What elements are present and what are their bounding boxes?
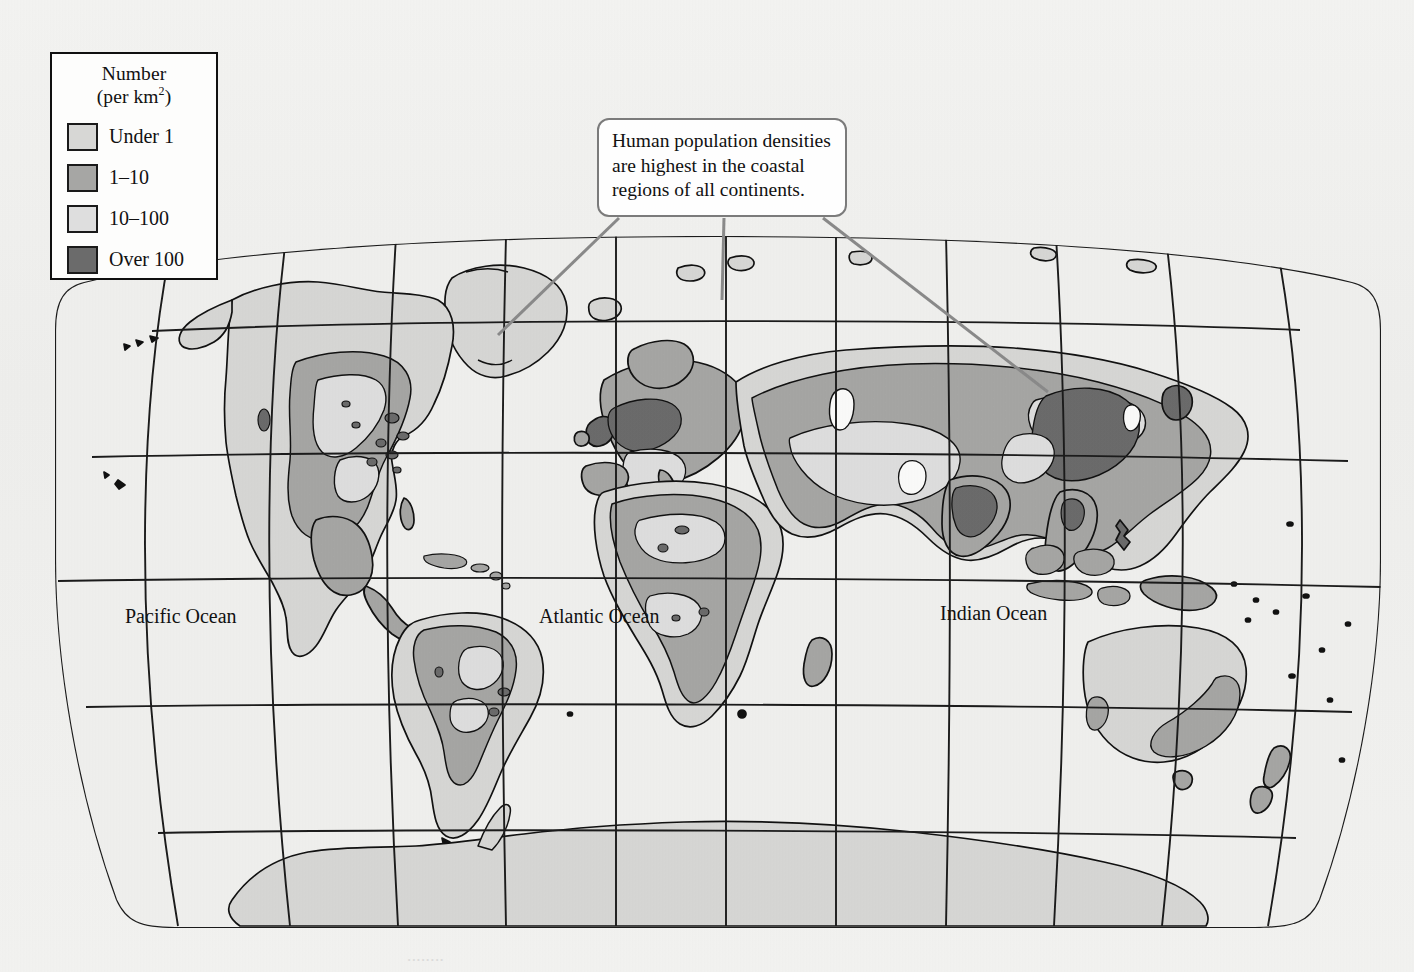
land-arctic-isle-c [1031,247,1057,260]
legend-units-suffix: ) [165,85,172,106]
ocean-label-atlantic: Atlantic Ocean [539,605,660,628]
water-korea-void [1124,405,1141,431]
land-ireland [574,431,589,446]
legend-label-under-1: Under 1 [109,125,174,148]
land-arctic-isle-a [728,256,754,271]
legend-item-10-100[interactable]: 10–100 [67,198,216,239]
legend-label-over-100: Over 100 [109,248,184,271]
legend-label-1-10: 1–10 [109,166,149,189]
land-arctic-isle-d [1127,259,1157,272]
map-legend: Number (per km2) Under 1 1–10 10–100 Ove… [50,52,218,280]
swatch-10-100 [67,205,98,233]
page-canvas: Number (per km2) Under 1 1–10 10–100 Ove… [0,0,1414,972]
density-africa-10to100-a [635,514,725,563]
legend-item-over-100[interactable]: Over 100 [67,239,216,280]
callout-text: Human population densities are highest i… [612,129,832,203]
swatch-over-100 [67,246,98,274]
legend-title-line1: Number [102,63,167,84]
legend-item-under-1[interactable]: Under 1 [67,116,216,157]
ocean-label-pacific: Pacific Ocean [125,605,237,628]
cut-off-caption: ........ [407,957,707,972]
legend-title: Number (per km2) [52,54,216,107]
land-svalbard [677,265,705,281]
cut-off-caption-text: ........ [407,957,707,966]
swatch-under-1 [67,123,98,151]
ocean-label-indian: Indian Ocean [940,602,1047,625]
callout-box: Human population densities are highest i… [597,118,847,217]
legend-item-1-10[interactable]: 1–10 [67,157,216,198]
water-lake-void-a [899,461,926,495]
leader-line-center [722,218,724,300]
legend-title-line2: (per km2) [52,85,216,107]
legend-units-prefix: (per km [97,85,159,106]
swatch-1-10 [67,164,98,192]
legend-label-10-100: 10–100 [109,207,169,230]
land-japan [1162,386,1192,420]
legend-rows: Under 1 1–10 10–100 Over 100 [52,116,216,280]
